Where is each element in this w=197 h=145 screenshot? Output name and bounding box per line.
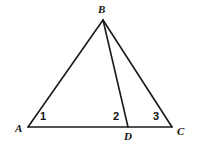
vertex-label-a: A: [15, 123, 22, 134]
angle-label-3: 3: [153, 111, 159, 122]
angle-label-1: 1: [40, 111, 46, 122]
vertex-label-d: D: [124, 131, 132, 142]
triangle-outline: [28, 20, 172, 127]
geometry-figure: A B C D 1 2 3: [0, 0, 197, 145]
vertex-label-c: C: [177, 126, 184, 137]
triangle-diagram: [0, 0, 197, 145]
angle-label-2: 2: [113, 111, 119, 122]
vertex-label-b: B: [98, 4, 105, 15]
